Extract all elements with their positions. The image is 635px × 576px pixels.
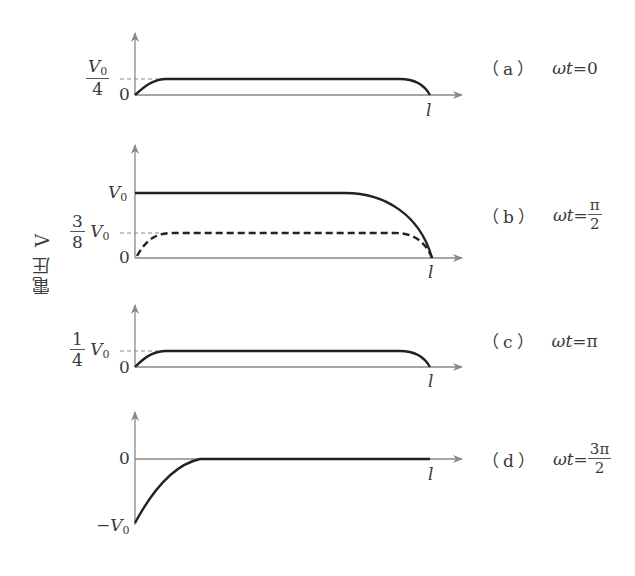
panel-d-caption: （d） ωt=3π2 [482,442,611,476]
panel-d-voltage-curve [135,459,430,523]
panel-b-plot [120,145,462,258]
panel-c-caption: （c） ωt=π [482,328,598,353]
panel-a-x-end-label: l [426,100,431,120]
panel-a-zero-tick: 0 [119,84,130,104]
panel-b-v0-tick: V0 [108,182,127,204]
panel-a-plot [120,33,462,95]
panel-d-neg-v0-tick: −V0 [96,515,130,537]
panel-b-dashed-curve [137,233,432,258]
panel-d-plot [135,412,462,525]
y-axis-label: 電圧 V [30,232,56,295]
panel-d-zero-tick: 0 [119,448,130,468]
panel-c-level-tick: 14 V0 [70,331,110,369]
panel-a-level-tick: V04 [86,58,109,98]
panel-d-x-end-label: l [428,464,433,484]
panel-b-x-end-label: l [428,262,433,282]
panel-a-caption: （a） ωt=0 [482,55,598,80]
panel-c-x-end-label: l [428,371,433,391]
panel-b-zero-tick: 0 [119,247,130,267]
panel-b-caption: （b） ωt=π2 [482,198,602,232]
panel-b-solid-curve [135,193,432,258]
panel-c-voltage-curve [135,351,430,367]
panel-c-plot [120,305,462,367]
panel-c-zero-tick: 0 [119,357,130,377]
panel-b-level-tick: 38 V0 [70,213,110,251]
panel-a-voltage-curve [135,79,430,95]
